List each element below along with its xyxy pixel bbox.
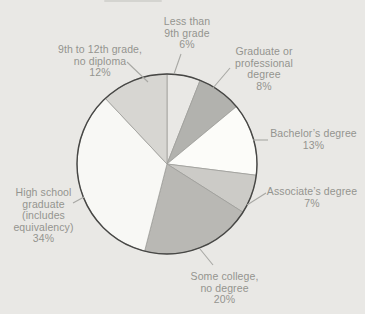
callout-bachelors-degree: Bachelor’s degree 13% bbox=[265, 128, 362, 151]
callout-9th-to-12th-grade: 9th to 12th grade, no diploma 12% bbox=[42, 44, 158, 79]
callout-graduate-professional-degree: Graduate or professional degree 8% bbox=[221, 46, 307, 92]
pie-chart-figure: Less than 9th grade 6% Graduate or profe… bbox=[0, 0, 365, 314]
callout-associates-degree: Associate’s degree 7% bbox=[261, 186, 363, 209]
pie-slices-group bbox=[77, 74, 257, 254]
callout-less-than-9th-grade: Less than 9th grade 6% bbox=[150, 16, 224, 51]
callout-high-school-graduate: High school graduate (includes equivalen… bbox=[6, 187, 81, 245]
leader-line-less-than-9th bbox=[174, 54, 181, 74]
callout-some-college: Some college, no degree 20% bbox=[182, 271, 267, 306]
leader-line-some-college bbox=[200, 249, 213, 265]
